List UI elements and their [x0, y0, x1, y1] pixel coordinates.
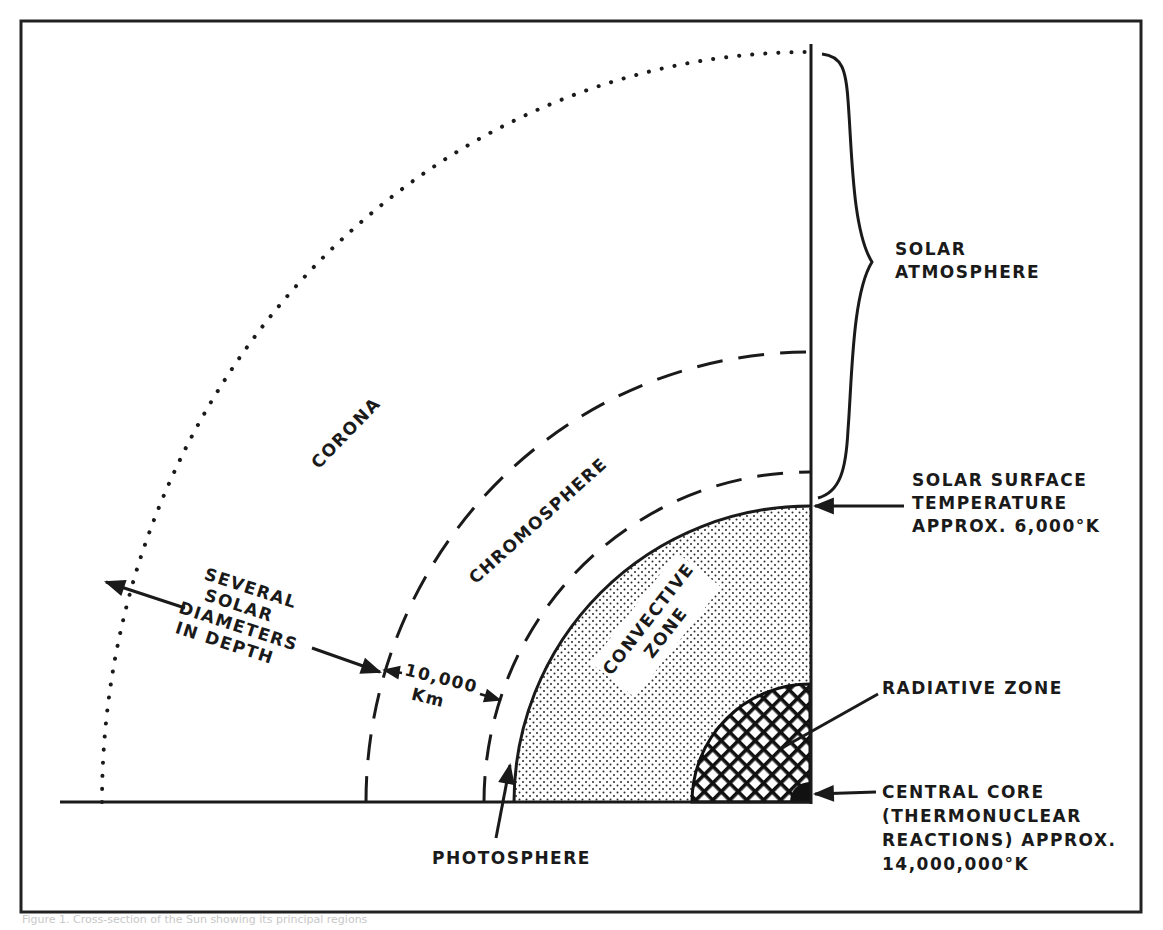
figure-caption: Figure 1. Cross-section of the Sun showi…: [22, 913, 367, 926]
solar-structure-diagram: CORONA CHROMOSPHERE CONVECTIVE ZONE SEVE…: [0, 0, 1163, 930]
solar-atmosphere-label-line2: ATMOSPHERE: [895, 262, 1040, 282]
central-core-line1: CENTRAL CORE: [882, 782, 1045, 802]
chromosphere-label: CHROMOSPHERE: [465, 453, 611, 588]
surface-temperature-line2: TEMPERATURE: [912, 493, 1068, 513]
thickness-arrow-right: [480, 694, 500, 700]
radiative-zone-label: RADIATIVE ZONE: [882, 678, 1063, 698]
depth-arrow-left: [106, 582, 185, 608]
photosphere-label: PHOTOSPHERE: [432, 848, 591, 868]
surface-temperature-line3: APPROX. 6,000°K: [912, 516, 1100, 536]
solar-atmosphere-label-line1: SOLAR: [895, 239, 966, 259]
surface-temperature-line1: SOLAR SURFACE: [912, 470, 1087, 490]
central-core-arrow: [815, 792, 876, 794]
thickness-arrow-left: [384, 670, 402, 673]
central-core-line4: 14,000,000°K: [882, 854, 1029, 874]
solar-atmosphere-brace: [818, 54, 872, 498]
central-core-line2: (THERMONUCLEAR: [882, 806, 1082, 826]
depth-arrow-right: [312, 648, 380, 672]
central-core-line3: REACTIONS) APPROX.: [882, 830, 1116, 850]
corona-label: CORONA: [307, 393, 385, 472]
